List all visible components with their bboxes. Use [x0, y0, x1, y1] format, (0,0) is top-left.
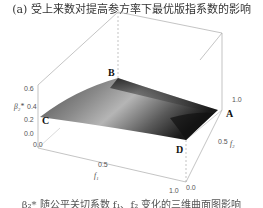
point-A-label: A — [226, 108, 234, 119]
x-tick-0.5: 0.5 — [98, 161, 108, 168]
y-axis-label: f₂ — [230, 139, 235, 148]
y-tick-1.0: 1.0 — [232, 96, 242, 103]
z-tick-0.2: 0.2 — [24, 116, 34, 123]
x-tick-0.0: 0.0 — [33, 141, 43, 148]
y-tick-0.5: 0.5 — [218, 138, 228, 145]
surface-plot: B A C D 0.6 0.4 0.2 0.0 β₂* 0.0 0.5 f₁ 1… — [0, 0, 263, 208]
point-B-label: B — [108, 67, 115, 78]
x-tick-1.0: 1.0 — [169, 187, 179, 194]
z-tick-0.4: 0.4 — [27, 103, 37, 110]
point-C-label: C — [42, 115, 49, 126]
y-tick-0.0: 0.0 — [186, 184, 196, 191]
z-axis-label: β₂* — [13, 102, 24, 111]
z-tick-0.6: 0.6 — [24, 85, 34, 92]
point-D-label: D — [176, 144, 183, 155]
figure-caption-bottom: β₂* 随公平关切系数 f₁、f₂ 变化的三维曲面图影响 — [0, 196, 263, 208]
z-tick-0.0: 0.0 — [24, 130, 34, 137]
x-axis-label: f₁ — [94, 171, 99, 180]
